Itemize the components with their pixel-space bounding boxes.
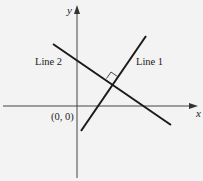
y-axis-label: y (66, 4, 72, 16)
coordinate-diagram: y x Line 2 Line 1 (0, 0) (0, 0, 203, 181)
line-1 (81, 36, 146, 131)
right-angle-marker (107, 72, 118, 79)
line-2-label: Line 2 (35, 56, 62, 67)
x-axis-label: x (195, 107, 201, 119)
origin-label: (0, 0) (51, 111, 74, 123)
y-axis (74, 5, 80, 178)
y-axis-arrow-icon (74, 5, 80, 14)
diagram-canvas: y x Line 2 Line 1 (0, 0) (0, 0, 203, 181)
line-1-label: Line 1 (136, 56, 163, 67)
